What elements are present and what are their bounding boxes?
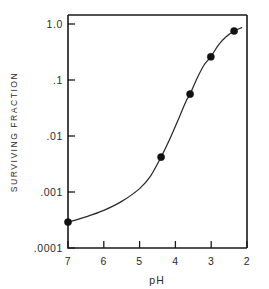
data-point — [186, 91, 193, 98]
x-axis-title: pH — [149, 274, 165, 286]
data-curve — [68, 28, 242, 222]
data-point — [64, 219, 71, 226]
x-tick-label: 6 — [101, 255, 107, 267]
y-tick-label: .1 — [53, 74, 63, 86]
plot-frame — [68, 15, 247, 248]
y-tick-label: .0001 — [34, 242, 63, 254]
x-tick-label: 3 — [208, 255, 214, 267]
data-point — [207, 53, 214, 60]
data-point — [231, 27, 238, 34]
y-axis-ticks — [68, 24, 75, 248]
data-points — [64, 27, 237, 225]
y-tick-label: .001 — [40, 186, 63, 198]
y-tick-label: 1.0 — [47, 18, 63, 30]
x-tick-label: 2 — [244, 255, 250, 267]
x-tick-label: 5 — [136, 255, 142, 267]
x-tick-label: 4 — [172, 255, 178, 267]
data-point — [157, 154, 164, 161]
semilog-plot: 1.0.1.01.001.0001 765432 pH SURVIVING FR… — [0, 0, 269, 289]
y-axis-title: SURVIVING FRACTION — [9, 72, 19, 192]
x-axis-ticks — [68, 241, 247, 248]
x-tick-label: 7 — [65, 255, 71, 267]
y-tick-label: .01 — [47, 130, 63, 142]
chart-figure: 1.0.1.01.001.0001 765432 pH SURVIVING FR… — [0, 0, 269, 289]
x-axis-tick-labels: 765432 — [65, 255, 250, 267]
y-axis-tick-labels: 1.0.1.01.001.0001 — [34, 18, 63, 254]
